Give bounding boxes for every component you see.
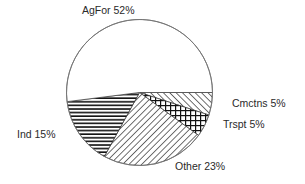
label-agfor: AgFor 52% bbox=[82, 4, 135, 16]
label-trspt: Trspt 5% bbox=[223, 118, 265, 130]
pie-slice-agfor bbox=[67, 19, 213, 101]
pie-chart bbox=[0, 0, 305, 184]
label-cmctns: Cmctns 5% bbox=[232, 97, 286, 109]
label-ind: Ind 15% bbox=[17, 128, 56, 140]
label-other: Other 23% bbox=[175, 160, 225, 172]
